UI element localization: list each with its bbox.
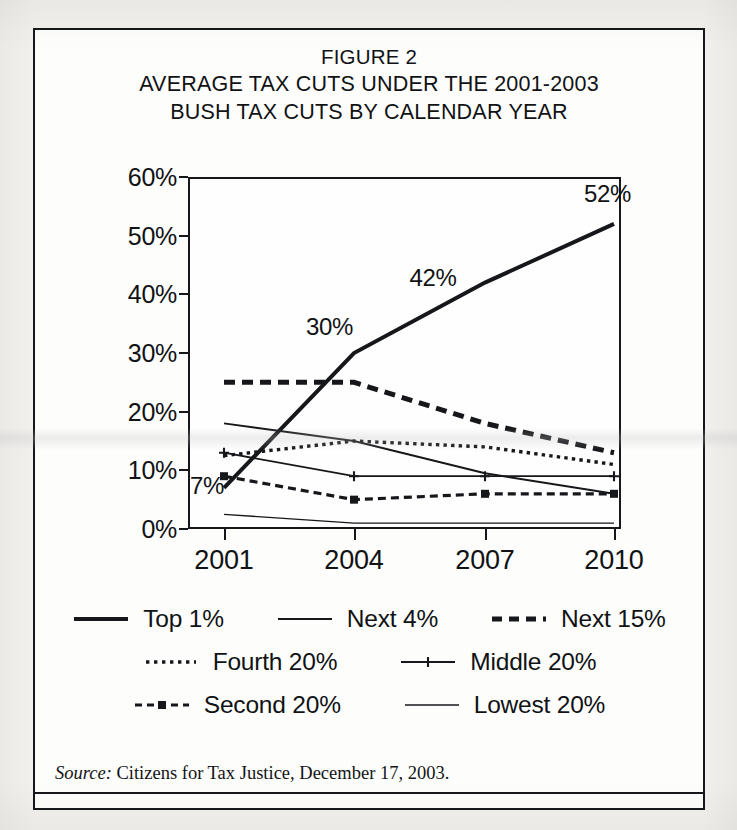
series-lowest-20: [224, 514, 614, 523]
x-axis-tick-mark: [614, 529, 616, 540]
y-axis-tick-label: 40%: [128, 280, 177, 309]
series-middle-20: [219, 448, 619, 481]
y-axis-tick-label: 50%: [128, 221, 177, 250]
source-note: Source: Citizens for Tax Justice, Decemb…: [55, 763, 683, 784]
legend-item-top-1[interactable]: Top 1%: [72, 605, 224, 633]
y-axis-tick-mark: [179, 293, 188, 295]
annotation-7pct: 7%: [190, 472, 224, 500]
x-axis-tick-label: 2004: [324, 545, 383, 576]
y-axis-tick-label: 30%: [128, 339, 177, 368]
legend-label: Next 4%: [347, 605, 438, 633]
series-fourth-20: [224, 441, 614, 464]
title-line-2: AVERAGE TAX CUTS UNDER THE 2001-2003: [35, 71, 703, 99]
x-axis-tick-mark: [485, 529, 487, 540]
legend-line-icon: [490, 612, 548, 626]
legend-label: Fourth 20%: [213, 648, 338, 676]
series-marker: [219, 448, 229, 458]
y-axis-tick-mark: [179, 352, 188, 354]
x-axis-tick-label: 2010: [584, 545, 643, 576]
legend-row: Fourth 20%Middle 20%: [142, 648, 597, 676]
figure-box: FIGURE 2 AVERAGE TAX CUTS UNDER THE 2001…: [33, 28, 705, 810]
y-axis-tick-mark: [179, 176, 188, 178]
chart-series-layer: [188, 177, 621, 529]
legend-label: Next 15%: [561, 605, 666, 633]
legend-line-icon: [403, 698, 461, 712]
y-axis-tick-mark: [179, 528, 188, 530]
legend-line-icon: [72, 612, 130, 626]
source-text: Citizens for Tax Justice, December 17, 2…: [112, 763, 449, 783]
x-axis-tick-label: 2007: [455, 545, 514, 576]
series-marker: [609, 471, 619, 481]
legend-row: Second 20%Lowest 20%: [133, 691, 605, 719]
series-marker: [349, 471, 359, 481]
y-axis-tick-mark: [179, 411, 188, 413]
x-axis-tick-label: 2001: [194, 545, 253, 576]
series-marker: [350, 496, 358, 504]
legend-item-next-15[interactable]: Next 15%: [490, 605, 666, 633]
series-next-4: [224, 423, 614, 493]
x-axis-tick-mark: [224, 529, 226, 540]
legend-item-fourth-20[interactable]: Fourth 20%: [142, 648, 338, 676]
figure-title: FIGURE 2 AVERAGE TAX CUTS UNDER THE 2001…: [35, 44, 703, 127]
legend-line-icon: [399, 655, 457, 669]
legend-item-next-4[interactable]: Next 4%: [276, 605, 438, 633]
series-marker: [610, 490, 618, 498]
series-marker: [481, 490, 489, 498]
y-axis-tick-label: 20%: [128, 397, 177, 426]
y-axis-tick-label: 60%: [128, 163, 177, 192]
y-axis-tick-mark: [179, 235, 188, 237]
plot-area: 0%10%20%30%40%50%60%2001200420072010 7%3…: [188, 177, 621, 529]
y-axis-tick-label: 0%: [141, 515, 177, 544]
legend-item-middle-20[interactable]: Middle 20%: [399, 648, 596, 676]
legend-line-icon: [142, 655, 200, 669]
annotation-52pct: 52%: [584, 180, 631, 208]
annotation-42pct: 42%: [410, 264, 457, 292]
y-axis-tick-mark: [179, 469, 188, 471]
annotation-30pct: 30%: [306, 313, 353, 341]
legend-label: Middle 20%: [470, 648, 596, 676]
legend-item-lowest-20[interactable]: Lowest 20%: [403, 691, 605, 719]
y-axis-tick-label: 10%: [128, 456, 177, 485]
title-line-1: FIGURE 2: [35, 44, 703, 71]
series-next-15: [224, 382, 614, 452]
chart-legend: Top 1%Next 4%Next 15%Fourth 20%Middle 20…: [35, 605, 703, 719]
legend-item-second-20[interactable]: Second 20%: [133, 691, 341, 719]
legend-row: Top 1%Next 4%Next 15%: [72, 605, 665, 633]
legend-label: Top 1%: [143, 605, 224, 633]
legend-label: Second 20%: [204, 691, 341, 719]
title-line-3: BUSH TAX CUTS BY CALENDAR YEAR: [35, 99, 703, 127]
source-divider: [35, 792, 703, 794]
legend-line-icon: [276, 612, 334, 626]
legend-label: Lowest 20%: [474, 691, 605, 719]
source-label: Source:: [55, 763, 112, 783]
x-axis-tick-mark: [354, 529, 356, 540]
legend-line-icon: [133, 698, 191, 712]
